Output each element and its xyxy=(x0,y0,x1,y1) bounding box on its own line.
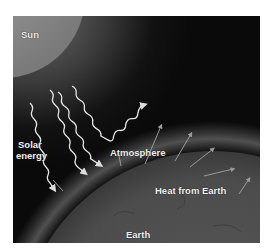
sun-label: Sun xyxy=(21,29,39,40)
greenhouse-diagram: Sun Solar energy Atmosphere Heat from Ea… xyxy=(13,16,260,243)
atmosphere-label: Atmosphere xyxy=(110,147,165,158)
solar-energy-label-line2: energy xyxy=(16,150,47,161)
solar-energy-label-line1: Solar xyxy=(18,139,42,150)
diagram-artwork xyxy=(13,16,260,243)
earth-label: Earth xyxy=(126,229,150,240)
heat-from-earth-label: Heat from Earth xyxy=(155,185,226,196)
sun-shape xyxy=(13,16,85,78)
